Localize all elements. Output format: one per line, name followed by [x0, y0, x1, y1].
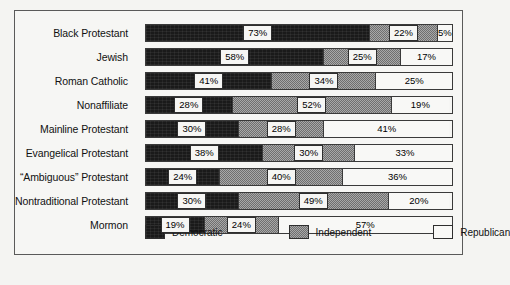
- bar-segment-independent: 49%: [238, 193, 388, 209]
- value-label: 24%: [168, 169, 197, 185]
- bar-segment-republican: 19%: [391, 97, 449, 113]
- value-label: 19%: [411, 100, 430, 110]
- legend-swatch-republican-icon: [433, 225, 453, 239]
- value-label: 57%: [356, 220, 375, 230]
- stacked-bar: 30%28%41%: [145, 120, 453, 138]
- stacked-bar: 41%34%25%: [145, 72, 453, 90]
- bar-segment-republican: 41%: [323, 121, 448, 137]
- value-label: 19%: [161, 217, 190, 233]
- category-label: Evangelical Protestant: [26, 147, 128, 159]
- bar-row: Nontraditional Protestant30%49%20%: [15, 192, 462, 210]
- category-label: Nonaffiliate: [77, 99, 128, 111]
- value-label: 52%: [297, 97, 326, 113]
- bar-segment-republican: 25%: [375, 73, 452, 89]
- bar-segment-independent: 40%: [219, 169, 341, 185]
- value-label: 25%: [405, 76, 424, 86]
- value-label: 49%: [299, 193, 328, 209]
- value-label: 38%: [190, 145, 219, 161]
- legend-swatch-independent-icon: [289, 225, 309, 239]
- bar-segment-independent: 22%: [369, 25, 436, 41]
- bar-segment-democratic: 73%: [146, 25, 369, 41]
- bar-segment-republican: 20%: [388, 193, 449, 209]
- bar-row: Nonaffiliate28%52%19%: [15, 96, 462, 114]
- value-label: 41%: [377, 124, 396, 134]
- value-label: 30%: [177, 121, 206, 137]
- bar-segment-independent: 30%: [262, 145, 354, 161]
- bar-row: Roman Catholic41%34%25%: [15, 72, 462, 90]
- bar-segment-democratic: 58%: [146, 49, 323, 65]
- value-label: 22%: [389, 25, 418, 41]
- value-label: 20%: [409, 196, 428, 206]
- category-label: Black Protestant: [53, 27, 128, 39]
- value-label: 73%: [243, 25, 272, 41]
- chart-frame: Black Protestant73%22%5%Jewish58%25%17%R…: [14, 10, 463, 255]
- value-label: 17%: [417, 52, 436, 62]
- bar-segment-independent: 52%: [232, 97, 391, 113]
- bar-segment-democratic: 28%: [146, 97, 232, 113]
- bar-row: “Ambiguous” Protestant24%40%36%: [15, 168, 462, 186]
- category-label: Mainline Protestant: [40, 123, 128, 135]
- category-label: Mormon: [90, 219, 128, 231]
- value-label: 34%: [309, 73, 338, 89]
- category-label: Jewish: [97, 51, 129, 63]
- bar-segment-independent: 25%: [323, 49, 400, 65]
- stacked-bar: 28%52%19%: [145, 96, 453, 114]
- bar-segment-democratic: 30%: [146, 121, 238, 137]
- bar-segment-democratic: 41%: [146, 73, 271, 89]
- value-label: 30%: [294, 145, 323, 161]
- value-label: 41%: [194, 73, 223, 89]
- bar-row: Jewish58%25%17%: [15, 48, 462, 66]
- category-label: Nontraditional Protestant: [15, 195, 128, 207]
- value-label: 5%: [438, 28, 452, 38]
- bar-segment-republican: 17%: [400, 49, 452, 65]
- bar-segment-independent: 34%: [271, 73, 375, 89]
- category-label: “Ambiguous” Protestant: [20, 171, 128, 183]
- stacked-bar: 38%30%33%: [145, 144, 453, 162]
- legend-item-republican: Republican: [433, 225, 510, 239]
- value-label: 33%: [396, 148, 415, 158]
- bar-row: Mainline Protestant30%28%41%: [15, 120, 462, 138]
- value-label: 40%: [267, 169, 296, 185]
- bar-segment-independent: 28%: [238, 121, 324, 137]
- bar-segment-republican: 33%: [354, 145, 453, 161]
- value-label: 28%: [267, 121, 296, 137]
- bar-segment-democratic: 38%: [146, 145, 262, 161]
- value-label: 58%: [220, 49, 249, 65]
- bar-segment-republican: 5%: [437, 25, 452, 41]
- bar-segment-democratic: 24%: [146, 169, 219, 185]
- bar-segment-republican: 36%: [342, 169, 452, 185]
- value-label: 24%: [227, 217, 256, 233]
- stacked-bar: 73%22%5%: [145, 24, 453, 42]
- chart-legend: Democratic Independent Republican: [145, 224, 510, 240]
- legend-label-republican: Republican: [460, 227, 510, 238]
- bar-row: Black Protestant73%22%5%: [15, 24, 462, 42]
- stacked-bar: 24%40%36%: [145, 168, 453, 186]
- stacked-bar: 30%49%20%: [145, 192, 453, 210]
- value-label: 36%: [388, 172, 407, 182]
- bar-row: Evangelical Protestant38%30%33%: [15, 144, 462, 162]
- stacked-bar: 58%25%17%: [145, 48, 453, 66]
- value-label: 25%: [348, 49, 377, 65]
- value-label: 28%: [174, 97, 203, 113]
- plot-area: Black Protestant73%22%5%Jewish58%25%17%R…: [15, 11, 462, 254]
- category-label: Roman Catholic: [55, 75, 128, 87]
- value-label: 30%: [177, 193, 206, 209]
- bar-segment-democratic: 30%: [146, 193, 238, 209]
